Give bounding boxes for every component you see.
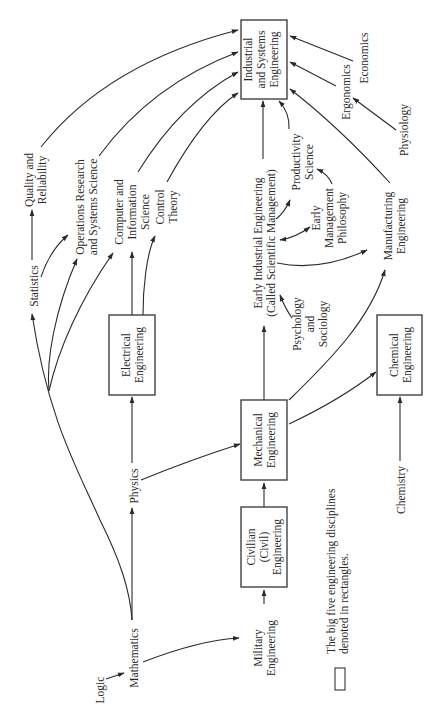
label-civilian-line1: Civilian — [245, 528, 257, 565]
legend-text-line2: denoted in rectangles. — [338, 553, 351, 654]
edge-early-mgmt-productivity — [317, 169, 332, 184]
label-physiology: Physiology — [398, 104, 411, 156]
edge-productivity-industrial — [279, 101, 289, 129]
label-early-mgmt-line2: Management — [323, 187, 336, 248]
legend-rectangle-swatch — [335, 668, 345, 690]
label-computer-line2: Information — [126, 184, 138, 239]
edge-early-ie-manufacturing — [277, 250, 367, 266]
label-control-line2: Theory — [167, 190, 180, 223]
node-electrical-engineering: Electrical Engineering — [109, 315, 155, 395]
edge-mechanical-manufacturing — [289, 270, 385, 400]
edge-logic-mathematics — [106, 673, 124, 679]
label-electrical-line2: Engineering — [133, 327, 146, 383]
node-early-management-philosophy: Early Management Philosophy — [310, 187, 349, 248]
label-early-mgmt-line1: Early — [310, 205, 323, 230]
label-mathematics: Mathematics — [128, 628, 140, 688]
legend-text-line1: The big five engineering disciplines — [325, 488, 338, 654]
node-civilian-engineering: Civilian (Civil) Engineering — [241, 507, 287, 587]
edge-physiology-ergonomics — [353, 98, 396, 130]
node-productivity-science: Productivity Science — [290, 133, 315, 190]
node-operations-research: Operations Research and Systems Science — [74, 159, 100, 255]
label-economics: Economics — [358, 32, 370, 84]
label-early-mgmt-line3: Philosophy — [336, 192, 349, 244]
edge-electrical-control — [143, 236, 155, 315]
edge-computer-industrial — [138, 72, 238, 172]
node-military-engineering: Military Engineering — [252, 620, 278, 676]
node-psychology-sociology: Psychology and Sociology — [291, 297, 330, 351]
node-mechanical-engineering: Mechanical Engineering — [241, 400, 287, 480]
node-chemistry: Chemistry — [395, 466, 408, 514]
label-industrial-line1: Industrial — [242, 37, 254, 81]
label-civilian-line2: (Civil) — [258, 532, 271, 563]
node-physiology: Physiology — [398, 104, 411, 156]
label-psychology-line2: and — [304, 315, 316, 332]
node-industrial-systems-engineering: Industrial and Systems Engineering — [241, 20, 287, 99]
node-early-industrial-engineering: Early Industrial Engineering (Called Sci… — [252, 169, 278, 317]
label-civilian-line3: Engineering — [271, 519, 284, 575]
edge-mathematics-military — [143, 638, 239, 662]
label-statistics: Statistics — [28, 265, 40, 307]
edge-physics-mechanical — [141, 444, 240, 480]
label-ergonomics: Ergonomics — [340, 64, 353, 120]
label-industrial-line2: and Systems — [255, 30, 268, 88]
label-quality-line1: Quality and — [23, 153, 36, 207]
label-operations-line2: and Systems Science — [87, 159, 100, 255]
label-manufacturing-line2: Engineering — [395, 198, 408, 254]
label-chemical-line1: Chemical — [388, 333, 400, 377]
label-psychology-line3: Sociology — [317, 300, 330, 347]
node-ergonomics: Ergonomics — [340, 64, 353, 120]
node-logic: Logic — [94, 677, 107, 704]
label-mechanical-line2: Engineering — [265, 412, 278, 468]
label-control-line1: Control — [154, 189, 166, 224]
edge-control-industrial — [167, 93, 238, 182]
label-military-line1: Military — [252, 629, 265, 667]
label-productivity-line1: Productivity — [290, 133, 303, 190]
legend: The big five engineering disciplines den… — [325, 488, 351, 690]
label-chemistry: Chemistry — [395, 466, 408, 514]
edge-operations-industrial — [99, 52, 238, 156]
label-electrical-line1: Electrical — [120, 333, 132, 377]
label-early-ie-line2: (Called Scientific Management) — [265, 169, 278, 317]
engineering-disciplines-diagram: Industrial and Systems Engineering Elect… — [0, 0, 433, 717]
node-quality-reliability: Quality and Reliability — [23, 153, 49, 207]
node-computer-information-science: Computer and Information Science — [113, 179, 151, 245]
label-military-line2: Engineering — [265, 620, 278, 676]
node-chemical-engineering: Chemical Engineering — [377, 315, 422, 395]
label-quality-line2: Reliability — [36, 155, 49, 204]
label-industrial-line3: Engineering — [268, 31, 281, 87]
label-computer-line3: Science — [139, 194, 151, 230]
edge-early-ie-productivity — [276, 200, 290, 219]
node-manufacturing-engineering: Manufacturing Engineering — [382, 192, 408, 261]
node-economics: Economics — [358, 32, 370, 84]
node-physics: Physics — [128, 468, 141, 504]
node-control-theory: Control Theory — [154, 189, 180, 224]
node-mathematics: Mathematics — [128, 628, 140, 688]
label-physics: Physics — [128, 468, 141, 504]
edge-early-ie-early-mgmt — [280, 227, 310, 240]
edge-quality-industrial — [41, 30, 238, 147]
edge-mechanical-chemical — [289, 372, 376, 424]
edge-statistics-operations — [41, 235, 68, 277]
edge-ergonomics-industrial — [290, 62, 336, 86]
label-logic: Logic — [94, 677, 107, 704]
edge-mathematics-computer — [49, 253, 113, 391]
label-chemical-line2: Engineering — [401, 327, 414, 383]
label-productivity-line2: Science — [303, 144, 315, 180]
label-manufacturing-line1: Manufacturing — [382, 192, 395, 261]
label-mechanical-line1: Mechanical — [252, 413, 264, 467]
label-computer-line1: Computer and — [113, 179, 126, 245]
label-operations-line1: Operations Research — [74, 159, 87, 255]
edge-mathematics-operations — [48, 259, 77, 391]
node-statistics: Statistics — [28, 265, 40, 307]
edge-economics-industrial — [290, 36, 353, 61]
label-early-ie-line1: Early Industrial Engineering — [252, 177, 265, 308]
label-psychology-line1: Psychology — [291, 297, 304, 351]
